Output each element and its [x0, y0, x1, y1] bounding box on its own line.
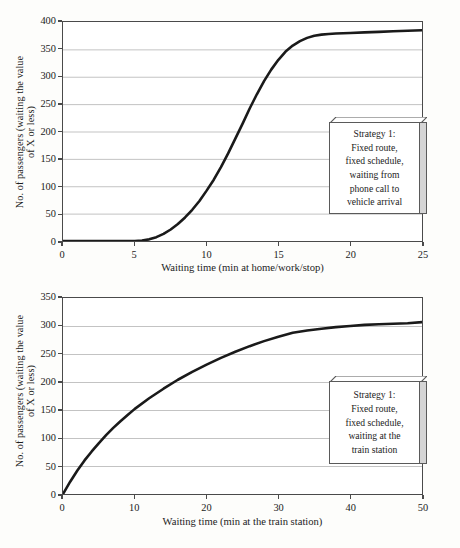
x-tick-label: 0	[59, 250, 64, 260]
x-tick-label: 50	[418, 503, 428, 513]
y-tick-mark	[58, 353, 62, 354]
x-tick-mark	[206, 242, 207, 246]
callout-line: vehicle arrival	[345, 195, 403, 209]
annotation-callout-top: Strategy 1:Fixed route,fixed schedule,wa…	[329, 117, 427, 214]
y-axis-title-line1: No. of passengers (waiting the value	[14, 56, 25, 208]
y-tick-mark	[58, 381, 62, 382]
callout-front-face-bottom: Strategy 1:Fixed route,fixed schedule,wa…	[329, 381, 420, 464]
callout-text-bottom: Strategy 1:Fixed route,fixed schedule,wa…	[341, 388, 407, 456]
y-tick-label: 50	[30, 209, 56, 219]
y-tick-mark	[58, 103, 62, 104]
y-axis-title-line1: No. of passengers (waiting the value	[14, 315, 25, 467]
x-axis-title-bottom: Waiting time (min at the train station)	[62, 516, 423, 527]
callout-side-face-bottom	[419, 381, 427, 464]
annotation-callout-bottom: Strategy 1:Fixed route,fixed schedule,wa…	[329, 376, 427, 464]
y-tick-label: 200	[30, 127, 56, 137]
callout-line: waiting from	[345, 168, 403, 182]
x-tick-mark	[350, 242, 351, 246]
x-tick-mark	[206, 495, 207, 499]
chart-figure-top: No. of passengers (waiting the value of …	[0, 0, 460, 280]
y-tick-label: 200	[30, 377, 56, 387]
x-tick-mark	[278, 495, 279, 499]
y-tick-label: 250	[30, 349, 56, 359]
x-tick-mark	[61, 495, 62, 499]
callout-line: fixed schedule,	[345, 416, 403, 430]
y-tick-mark	[58, 158, 62, 159]
x-tick-label: 0	[59, 503, 64, 513]
x-tick-mark	[350, 495, 351, 499]
callout-line: Strategy 1:	[345, 127, 403, 141]
x-tick-mark	[134, 495, 135, 499]
callout-line: Fixed route,	[345, 402, 403, 416]
y-tick-mark	[58, 214, 62, 215]
x-tick-label: 30	[273, 503, 283, 513]
y-tick-label: 0	[30, 490, 56, 500]
y-tick-label: 0	[30, 237, 56, 247]
callout-line: Fixed route,	[345, 141, 403, 155]
callout-front-face-top: Strategy 1:Fixed route,fixed schedule,wa…	[329, 122, 420, 214]
y-tick-mark	[58, 296, 62, 297]
y-tick-label: 350	[30, 44, 56, 54]
callout-line: waiting at the	[345, 429, 403, 443]
chart-figure-bottom: No. of passengers (waiting the value of …	[0, 280, 460, 548]
y-tick-label: 400	[30, 16, 56, 26]
x-tick-label: 10	[201, 250, 211, 260]
y-tick-label: 150	[30, 154, 56, 164]
x-tick-label: 10	[129, 503, 139, 513]
x-tick-label: 25	[418, 250, 428, 260]
y-tick-mark	[58, 131, 62, 132]
y-tick-label: 150	[30, 405, 56, 415]
y-tick-label: 300	[30, 320, 56, 330]
x-tick-mark	[422, 242, 423, 246]
x-tick-label: 40	[346, 503, 356, 513]
x-tick-mark	[278, 242, 279, 246]
callout-line: train station	[345, 443, 403, 457]
x-tick-mark	[134, 242, 135, 246]
y-tick-mark	[58, 20, 62, 21]
y-tick-label: 100	[30, 433, 56, 443]
callout-side-face-top	[419, 122, 427, 214]
x-tick-label: 20	[346, 250, 356, 260]
x-tick-mark	[61, 242, 62, 246]
callout-text-top: Strategy 1:Fixed route,fixed schedule,wa…	[341, 127, 407, 209]
callout-line: fixed schedule,	[345, 154, 403, 168]
y-tick-label: 100	[30, 182, 56, 192]
y-tick-label: 350	[30, 292, 56, 302]
y-tick-mark	[58, 438, 62, 439]
y-tick-label: 250	[30, 99, 56, 109]
y-tick-label: 300	[30, 71, 56, 81]
y-tick-mark	[58, 466, 62, 467]
callout-line: phone call to	[345, 182, 403, 196]
y-tick-mark	[58, 325, 62, 326]
callout-line: Strategy 1:	[345, 388, 403, 402]
y-tick-mark	[58, 186, 62, 187]
y-tick-mark	[58, 48, 62, 49]
y-tick-mark	[58, 76, 62, 77]
x-tick-label: 15	[273, 250, 283, 260]
x-tick-label: 5	[132, 250, 137, 260]
y-tick-mark	[58, 409, 62, 410]
x-tick-label: 20	[201, 503, 211, 513]
x-axis-title-top: Waiting time (min at home/work/stop)	[62, 262, 423, 273]
x-tick-mark	[422, 495, 423, 499]
y-tick-label: 50	[30, 462, 56, 472]
